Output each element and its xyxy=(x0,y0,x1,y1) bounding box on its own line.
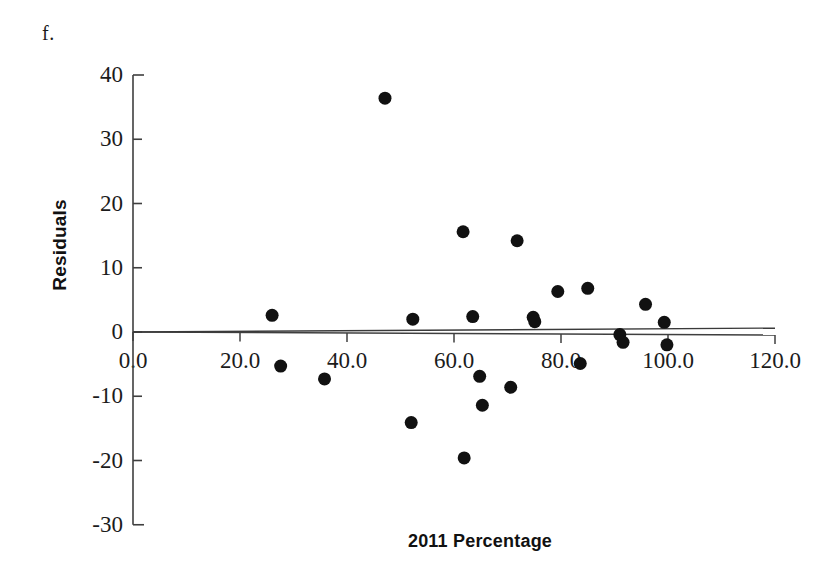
data-point xyxy=(551,285,564,298)
data-point xyxy=(658,316,671,329)
data-point xyxy=(466,310,479,323)
data-point xyxy=(528,315,541,328)
data-points-group xyxy=(266,92,674,465)
data-point xyxy=(639,298,652,311)
data-point xyxy=(504,381,517,394)
data-point xyxy=(405,416,418,429)
data-point xyxy=(617,336,630,349)
data-point xyxy=(318,372,331,385)
data-point xyxy=(378,92,391,105)
data-point xyxy=(511,234,524,247)
data-point xyxy=(660,338,673,351)
data-point xyxy=(581,282,594,295)
trend-line xyxy=(133,328,775,332)
data-point xyxy=(476,399,489,412)
data-point xyxy=(473,370,486,383)
data-point xyxy=(274,360,287,373)
data-point xyxy=(266,309,279,322)
axis-group xyxy=(133,75,775,525)
residual-scatter-figure: f. Residuals 2011 Percentage -30-20-1001… xyxy=(0,0,837,571)
plot-canvas xyxy=(0,0,837,571)
data-point xyxy=(574,357,587,370)
data-point xyxy=(458,451,471,464)
data-point xyxy=(457,225,470,238)
data-point xyxy=(406,313,419,326)
trend-line-group xyxy=(133,328,775,332)
